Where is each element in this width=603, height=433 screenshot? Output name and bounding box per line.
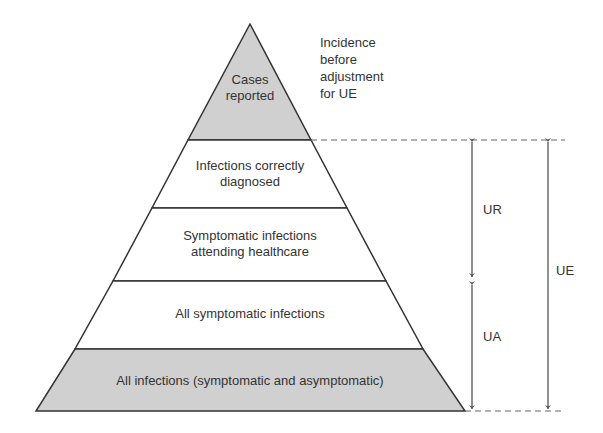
pyramid-diagram <box>0 0 603 433</box>
label-cases-reported: Cases reported <box>200 72 300 104</box>
label-all-symptomatic-infections: All symptomatic infections <box>150 306 350 322</box>
label-ua: UA <box>483 328 501 345</box>
label-ue: UE <box>556 262 574 279</box>
label-infections-correctly-diagnosed: Infections correctly diagnosed <box>170 158 330 190</box>
annotation-incidence-before-adjustment: Incidence before adjustment for UE <box>320 34 384 102</box>
label-all-infections: All infections (symptomatic and asymptom… <box>90 373 410 389</box>
label-ur: UR <box>483 201 502 218</box>
label-symptomatic-attending-healthcare: Symptomatic infections attending healthc… <box>150 228 350 260</box>
